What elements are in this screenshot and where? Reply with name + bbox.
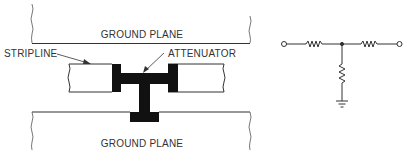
top-ground-plane-label: GROUND PLANE (101, 29, 184, 40)
attenuator-label: ATTENUATOR (168, 48, 236, 59)
series-resistor-right-icon (361, 41, 377, 47)
series-resistor-left-icon (306, 41, 322, 47)
stripline-left-segment (68, 64, 112, 92)
attenuator-ground-foot (130, 112, 159, 122)
top-ground-plane-left-break (31, 4, 33, 43)
input-terminal-icon (282, 42, 287, 47)
t-network-schematic (282, 41, 403, 107)
top-ground-plane: GROUND PLANE (31, 4, 251, 44)
stripline-attenuator-diagram: GROUND PLANE GROUND PLANE STRIPLINE (0, 0, 411, 165)
output-terminal-icon (397, 42, 402, 47)
stripline-leader-line (57, 54, 88, 63)
ground-symbol-icon (336, 101, 348, 107)
attenuator-arrowhead (143, 66, 149, 73)
stripline-label: STRIPLINE (4, 48, 58, 59)
top-ground-plane-right-break (249, 16, 251, 43)
bottom-ground-plane-label: GROUND PLANE (101, 138, 184, 149)
stripline-arrowhead (83, 59, 91, 64)
attenuator-leader-line (146, 53, 164, 70)
bottom-ground-plane-left-break (31, 112, 33, 150)
shunt-resistor-icon (339, 64, 345, 83)
attenuator-element (112, 64, 178, 122)
bottom-ground-plane-right-break (249, 112, 251, 150)
physical-layout: GROUND PLANE GROUND PLANE STRIPLINE (4, 4, 251, 150)
